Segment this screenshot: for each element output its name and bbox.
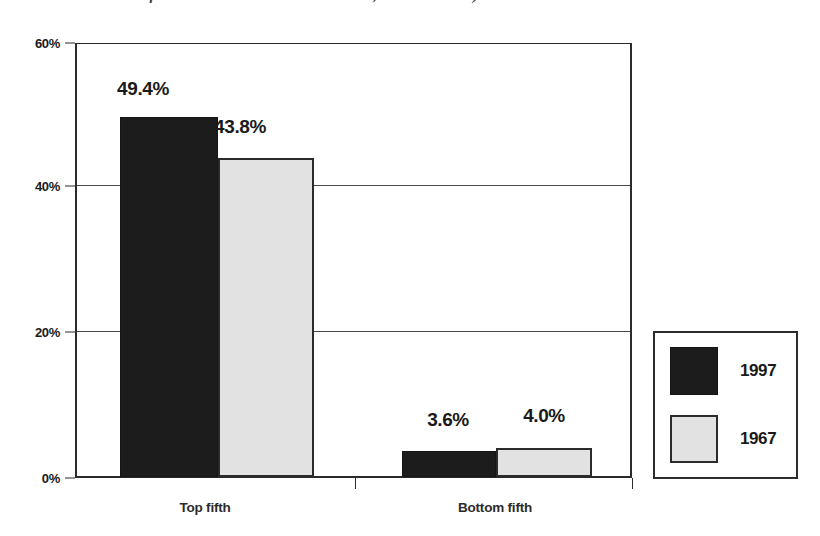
y-tick-label-0: 0% <box>0 471 60 486</box>
bar-bottom-fifth-1997[interactable] <box>402 451 496 477</box>
bar-bottom-fifth-1967[interactable] <box>496 448 592 477</box>
legend-label-1997: 1997 <box>740 361 776 381</box>
x-tick-mark-right <box>632 478 633 489</box>
y-tick-label-20: 20% <box>0 325 60 340</box>
x-tick-mark-mid <box>355 478 356 489</box>
legend-label-1967: 1967 <box>740 429 776 449</box>
legend-swatch-1967-icon <box>670 415 718 463</box>
y-tick-mark-40 <box>65 186 75 187</box>
bar-top-fifth-1967[interactable] <box>218 158 314 477</box>
chart-caption: of the household income distribution, 19… <box>0 0 620 4</box>
legend-item-1967[interactable]: 1967 <box>670 412 786 466</box>
chart-legend: 1997 1967 <box>653 331 798 479</box>
y-tick-mark-20 <box>65 332 75 333</box>
bar-value-bottom-fifth-1967: 4.0% <box>489 405 599 427</box>
y-tick-label-60: 60% <box>0 36 60 51</box>
legend-swatch-1997-icon <box>670 347 718 395</box>
y-tick-mark-60 <box>65 43 75 44</box>
x-category-label-top-fifth: Top fifth <box>135 500 275 515</box>
bar-value-top-fifth-1997: 49.4% <box>88 78 198 100</box>
y-tick-label-40: 40% <box>0 179 60 194</box>
bar-value-bottom-fifth-1997: 3.6% <box>393 409 503 431</box>
bar-value-top-fifth-1967: 43.8% <box>185 116 295 138</box>
bar-top-fifth-1997[interactable] <box>120 117 218 477</box>
x-category-label-bottom-fifth: Bottom fifth <box>425 500 565 515</box>
y-tick-mark-0 <box>65 478 75 479</box>
legend-item-1997[interactable]: 1997 <box>670 344 786 398</box>
